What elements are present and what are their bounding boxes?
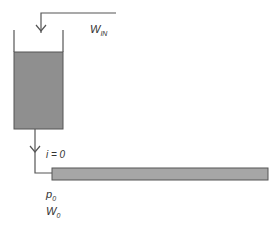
outlet-condition-label: i = 0 (46, 150, 65, 160)
tank (14, 30, 63, 129)
pressure-label: p0 (46, 189, 56, 202)
diagram-canvas (0, 0, 280, 227)
inflow-label: WIN (90, 24, 107, 37)
discharge-pipe (52, 168, 268, 180)
tank-liquid (14, 52, 63, 129)
flow-label: W0 (46, 206, 60, 219)
